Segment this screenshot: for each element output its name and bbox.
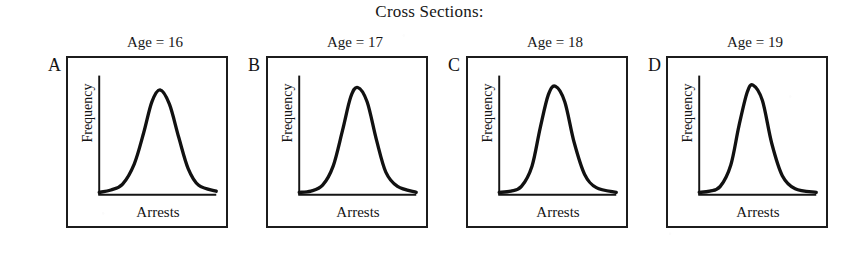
panel-frame: FrequencyArrests [466,56,628,228]
panel-age-label: Age = 17 [266,34,444,50]
cross-section-panel-c: Age = 18CFrequencyArrests [448,34,644,234]
frequency-distribution-curve [699,85,816,193]
y-axis-label: Frequency [681,65,695,161]
panel-letter: D [648,56,661,74]
frequency-distribution-curve [99,90,216,193]
frequency-distribution-curve [299,87,416,192]
panel-frame: FrequencyArrests [66,56,228,228]
x-axis-label: Arrests [694,205,822,220]
panel-letter: B [248,56,260,74]
panel-frame: FrequencyArrests [266,56,428,228]
cross-sections-panel-row: Age = 16AFrequencyArrestsAge = 17BFreque… [0,34,859,234]
x-axis-label: Arrests [294,205,422,220]
y-axis-label: Frequency [481,65,495,161]
y-axis-label: Frequency [281,65,295,161]
panel-letter: C [448,56,460,74]
panel-age-label: Age = 18 [466,34,644,50]
panel-age-label: Age = 19 [666,34,844,50]
panel-age-label: Age = 16 [66,34,244,50]
x-axis-label: Arrests [94,205,222,220]
frequency-distribution-curve [499,86,616,192]
cross-section-panel-a: Age = 16AFrequencyArrests [48,34,244,234]
x-axis-label: Arrests [494,205,622,220]
y-axis-label: Frequency [81,65,95,161]
panel-frame: FrequencyArrests [666,56,828,228]
panel-letter: A [48,56,61,74]
cross-section-panel-b: Age = 17BFrequencyArrests [248,34,444,234]
figure-title: Cross Sections: [0,2,859,22]
cross-section-panel-d: Age = 19DFrequencyArrests [648,34,844,234]
